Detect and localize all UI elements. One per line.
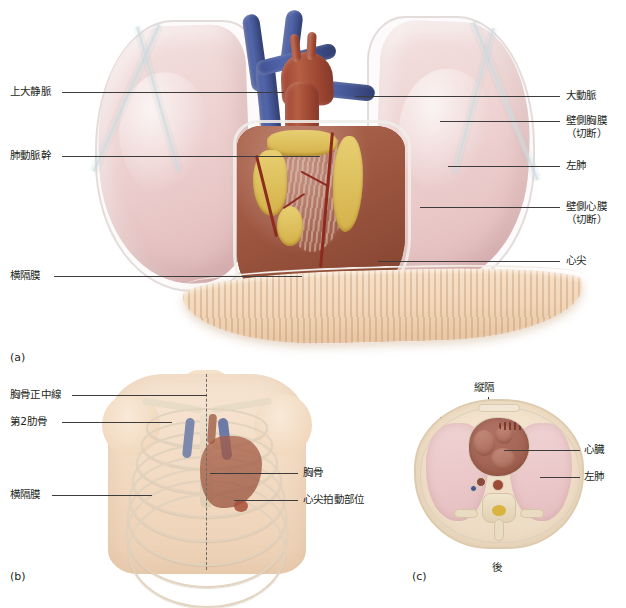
label-parietal-pleura-sub: （切断） <box>566 127 607 140</box>
label-left-lung-text: 左肺 <box>566 159 586 171</box>
label-mediastinum: 縦隔 <box>474 381 494 394</box>
leader-midsternal-line <box>72 395 207 396</box>
transverse-process-left <box>454 509 478 518</box>
label-superior-vena-cava: 上大静脈 <box>10 85 51 98</box>
label-pulmonary-trunk: 肺動脈幹 <box>10 149 51 162</box>
heart-cross-section <box>468 417 530 477</box>
torso-illustration <box>108 374 306 574</box>
label-parietal-pericardium-text: 壁側心膜 <box>566 200 607 213</box>
label-aorta-text: 大動脈 <box>566 89 597 101</box>
label-cardiac-apex: 心尖 <box>566 254 586 267</box>
apex-beat-marker <box>234 500 248 512</box>
leader-second-rib <box>62 422 172 423</box>
label-heart-c: 心臓 <box>584 443 604 456</box>
leader-parietal-pleura <box>440 121 560 122</box>
label-posterior: 後 <box>492 561 502 574</box>
label-apex-beat-site: 心尖拍動部位 <box>303 493 364 506</box>
transverse-process-right <box>520 509 544 518</box>
leader-superior-vena-cava <box>62 92 284 93</box>
label-diaphragm-b: 横隔膜 <box>10 488 41 501</box>
sternum-cross-section <box>478 404 520 412</box>
coronary-detail <box>499 422 525 430</box>
label-parietal-pleura-cut: 壁側胸膜 （切断） <box>566 114 607 140</box>
thorax-illustration <box>95 8 535 308</box>
leader-parietal-pericardium <box>420 207 560 208</box>
esophagus-cross-section <box>476 477 486 487</box>
spinous-process <box>494 519 504 541</box>
aorta-branch-2 <box>306 32 316 60</box>
spinal-cord <box>492 505 506 516</box>
label-parietal-pericardium-cut: 壁側心膜 （切断） <box>566 200 607 226</box>
leader-diaphragm-b <box>52 495 152 496</box>
leader-left-lung-c <box>540 477 580 478</box>
chamber-right-ventricle <box>473 430 495 456</box>
leader-pulmonary-trunk <box>62 156 320 157</box>
leader-cardiac-apex <box>378 261 560 262</box>
label-sternum: 胸骨 <box>303 466 323 479</box>
leader-sternum <box>210 473 298 474</box>
panel-tag-b: (b) <box>10 570 26 583</box>
label-midsternal-line: 胸骨正中線 <box>10 388 61 401</box>
panel-c-cross-section: 縦隔 心臓 左 <box>392 385 626 585</box>
midsternal-dashed-line <box>206 374 207 570</box>
descending-aorta-cross-section <box>492 479 504 491</box>
panel-a-thoracic-cavity: 上大静脈 肺動脈幹 横隔膜 大動脈 壁側胸膜 （切断） 左肺 壁側心膜 （切断）… <box>0 0 626 365</box>
thorax-cross-section <box>414 399 584 549</box>
label-parietal-pleura-text: 壁側胸膜 <box>566 114 607 127</box>
panel-b-surface-anatomy: 胸骨正中線 第2肋骨 横隔膜 胸骨 心尖拍動部位 (b) <box>0 368 390 593</box>
leader-diaphragm-a <box>54 276 302 277</box>
label-diaphragm-a: 横隔膜 <box>10 269 41 282</box>
leader-aorta <box>355 96 560 97</box>
chamber-left-ventricle <box>491 448 515 470</box>
rib-pair-8 <box>128 494 286 608</box>
azygos-vein-cross-section <box>470 485 477 492</box>
label-left-lung-c: 左肺 <box>584 470 604 483</box>
label-left-lung-a: 左肺 <box>566 159 586 172</box>
leader-apex-beat <box>234 500 298 501</box>
panel-tag-a: (a) <box>10 351 25 364</box>
label-parietal-pericardium-sub: （切断） <box>566 213 607 226</box>
label-second-rib: 第2肋骨 <box>10 415 47 428</box>
leader-heart-c <box>504 450 580 451</box>
panel-tag-c: (c) <box>412 570 427 583</box>
label-aorta: 大動脈 <box>566 89 597 102</box>
leader-left-lung-a <box>448 166 560 167</box>
label-cardiac-apex-text: 心尖 <box>566 254 586 266</box>
